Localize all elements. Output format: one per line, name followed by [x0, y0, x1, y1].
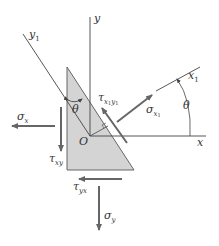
- label-origin: O: [79, 135, 88, 148]
- label-x1: x1: [188, 69, 199, 84]
- label-tau-x1y1: τx1y1: [98, 91, 118, 106]
- label-sigma-x: σx: [17, 110, 29, 125]
- label-tau-xy: τxy: [49, 152, 64, 167]
- label-tau-yx: τyx: [73, 180, 87, 195]
- stress-diagram: y y1 x1 x O θ θ τx1y1 σx1 σx τxy τyx σy: [0, 0, 219, 246]
- label-theta-top: θ: [72, 103, 79, 116]
- label-theta-right: θ: [183, 99, 190, 112]
- wedge-element: [67, 67, 134, 170]
- label-x: x: [197, 136, 204, 149]
- label-sigma-y: σy: [104, 209, 117, 224]
- label-y: y: [93, 12, 101, 25]
- y1-axis: [23, 34, 90, 136]
- label-y1: y1: [28, 28, 40, 43]
- label-sigma-x1: σx1: [146, 103, 161, 118]
